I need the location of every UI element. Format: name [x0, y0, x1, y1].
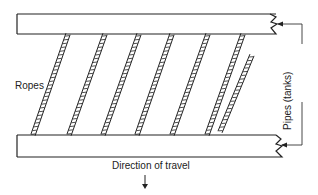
direction-arrow-icon	[142, 175, 148, 189]
bottom-pipe	[17, 135, 282, 157]
rope	[218, 54, 254, 133]
pipes-tanks-label: Pipes (tanks)	[282, 72, 293, 130]
rope	[135, 33, 174, 135]
direction-of-travel-label: Direction of travel	[112, 160, 190, 171]
top-pipe	[17, 14, 277, 34]
rope	[205, 33, 245, 135]
rope	[170, 33, 210, 135]
ropes	[31, 33, 254, 135]
ropes-label: Ropes	[15, 80, 44, 91]
rope	[67, 33, 107, 135]
rope	[101, 33, 141, 135]
